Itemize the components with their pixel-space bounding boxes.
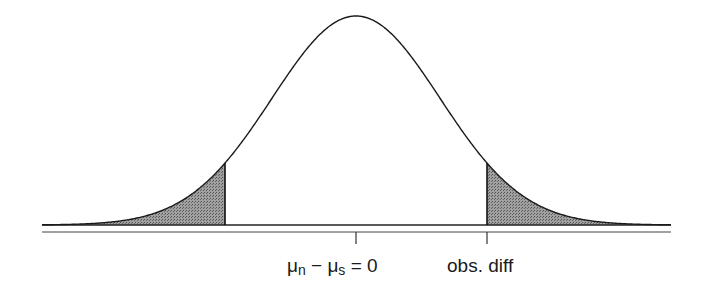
center-label: μn − μs = 0 bbox=[287, 256, 378, 275]
normal-curve bbox=[42, 16, 671, 225]
normal-curve-figure bbox=[0, 0, 702, 289]
right-tail-shaded-region bbox=[487, 163, 671, 225]
left-tail-shaded-region bbox=[42, 163, 225, 225]
obs-diff-label: obs. diff bbox=[447, 256, 513, 275]
